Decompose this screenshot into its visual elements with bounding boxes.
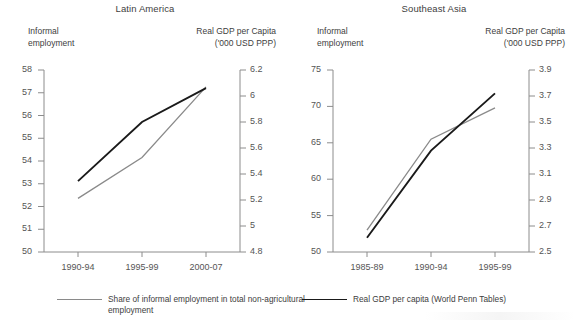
plot-svg-latin <box>0 0 290 290</box>
legend-item-informal-employment: Share of informal employment in total no… <box>57 294 307 316</box>
two-panel-line-chart-figure: Latin America Informal employment Real G… <box>0 0 579 320</box>
ytick-left-sea-3: 65 <box>295 137 321 147</box>
ytick-right-sea-1: 2.7 <box>539 220 552 230</box>
legend-line-swatch-black-icon <box>302 294 347 304</box>
ytick-right-sea-0: 2.5 <box>539 246 552 256</box>
footer-artifact <box>425 312 575 320</box>
ytick-right-sea-2: 2.9 <box>539 194 552 204</box>
left-axis-ticks-latin <box>38 70 44 252</box>
ytick-right-sea-3: 3.1 <box>539 168 552 178</box>
right-axis-ticks-latin <box>240 70 246 252</box>
plot-svg-sea <box>289 0 579 290</box>
ytick-right-latin-6: 6 <box>250 90 255 100</box>
ytick-right-latin-3: 5.4 <box>250 168 263 178</box>
ytick-left-sea-4: 70 <box>295 100 321 110</box>
ytick-left-sea-5: 75 <box>295 64 321 74</box>
x-axis-ticks-sea <box>367 252 495 257</box>
ytick-left-sea-2: 60 <box>295 173 321 183</box>
right-axis-ticks-sea <box>529 70 535 252</box>
ytick-left-latin-1: 51 <box>6 223 32 233</box>
ytick-left-latin-8: 58 <box>6 64 32 74</box>
ytick-left-latin-3: 53 <box>6 178 32 188</box>
panel-southeast-asia: Southeast Asia Informal employment Real … <box>289 0 579 290</box>
ytick-left-latin-2: 52 <box>6 201 32 211</box>
series-line-gdp-sea <box>367 93 495 237</box>
ytick-left-latin-0: 50 <box>6 246 32 256</box>
ytick-left-latin-6: 56 <box>6 110 32 120</box>
xtick-sea-2: 1995-99 <box>457 262 533 272</box>
ytick-left-latin-7: 57 <box>6 87 32 97</box>
ytick-right-latin-5: 5.8 <box>250 116 263 126</box>
series-line-informal-latin <box>78 87 206 198</box>
legend-line-swatch-gray-icon <box>57 294 102 304</box>
xtick-latin-2: 2000-07 <box>168 262 244 272</box>
ytick-left-sea-1: 55 <box>295 210 321 220</box>
x-axis-ticks-latin <box>78 252 206 257</box>
plot-area-latin-america: 58 57 56 55 54 53 52 51 50 6.2 6 5.8 5.6… <box>0 0 290 290</box>
ytick-left-latin-5: 55 <box>6 132 32 142</box>
ytick-right-latin-0: 4.8 <box>250 246 263 256</box>
legend-item-real-gdp: Real GDP per capita (World Penn Tables) <box>302 294 572 305</box>
ytick-right-sea-6: 3.7 <box>539 90 552 100</box>
series-line-gdp-latin <box>78 88 206 181</box>
legend-label-informal-employment: Share of informal employment in total no… <box>108 294 307 316</box>
ytick-right-sea-4: 3.3 <box>539 142 552 152</box>
ytick-left-latin-4: 54 <box>6 155 32 165</box>
ytick-right-sea-5: 3.5 <box>539 116 552 126</box>
legend-label-real-gdp: Real GDP per capita (World Penn Tables) <box>353 294 506 305</box>
ytick-left-sea-0: 50 <box>295 246 321 256</box>
ytick-right-sea-7: 3.9 <box>539 64 552 74</box>
panel-latin-america: Latin America Informal employment Real G… <box>0 0 290 290</box>
plot-area-southeast-asia: 75 70 65 60 55 50 3.9 3.7 3.5 3.3 3.1 2.… <box>289 0 579 290</box>
ytick-right-latin-2: 5.2 <box>250 194 263 204</box>
ytick-right-latin-7: 6.2 <box>250 64 263 74</box>
left-axis-ticks-sea <box>327 70 333 252</box>
ytick-right-latin-4: 5.6 <box>250 142 263 152</box>
ytick-right-latin-1: 5 <box>250 220 255 230</box>
